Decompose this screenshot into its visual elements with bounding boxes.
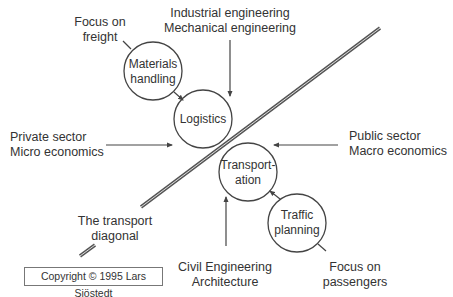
private-sector-line2: Micro economics — [10, 145, 104, 160]
materials-handling-line2: handling — [124, 72, 182, 87]
focus-freight-line2: freight — [70, 30, 130, 45]
traffic-planning-line1: Traffic — [268, 208, 326, 223]
copyright-box: Copyright © 1995 Lars Sjöstedt — [24, 267, 163, 286]
public-sector-line2: Macro economics — [349, 144, 447, 159]
logistics-node: Logistics — [174, 112, 232, 127]
traffic-planning-line2: planning — [268, 223, 326, 238]
transportation-line2: ation — [219, 173, 277, 188]
private-sector-label: Private sector Micro economics — [10, 130, 104, 160]
mh-to-logistics-arrow — [174, 92, 183, 100]
engineering-line2: Mechanical engineering — [160, 21, 300, 36]
materials-handling-line1: Materials — [124, 57, 182, 72]
public-sector-label: Public sector Macro economics — [349, 129, 447, 159]
focus-passengers-line2: passengers — [320, 275, 390, 290]
passengers-connector — [318, 244, 326, 251]
civil-engineering-label: Civil Engineering Architecture — [170, 260, 280, 290]
focus-on-freight-label: Focus on freight — [70, 15, 130, 45]
engineering-line1: Industrial engineering — [160, 6, 300, 21]
tp-to-transportation-arrow — [270, 191, 280, 199]
engineering-label: Industrial engineering Mechanical engine… — [160, 6, 300, 36]
materials-handling-node: Materials handling — [124, 57, 182, 87]
public-sector-line1: Public sector — [349, 129, 447, 144]
private-sector-line1: Private sector — [10, 130, 104, 145]
transportation-node: Transport- ation — [219, 158, 277, 188]
diagonal-line2: diagonal — [70, 229, 160, 244]
diagonal-line1: The transport — [70, 214, 160, 229]
focus-freight-line1: Focus on — [70, 15, 130, 30]
logistics-label: Logistics — [174, 112, 232, 127]
civil-line1: Civil Engineering — [170, 260, 280, 275]
transportation-line1: Transport- — [219, 158, 277, 173]
focus-passengers-line1: Focus on — [320, 260, 390, 275]
focus-on-passengers-label: Focus on passengers — [320, 260, 390, 290]
transport-diagonal-label: The transport diagonal — [70, 214, 160, 244]
traffic-planning-node: Traffic planning — [268, 208, 326, 238]
civil-line2: Architecture — [170, 275, 280, 290]
